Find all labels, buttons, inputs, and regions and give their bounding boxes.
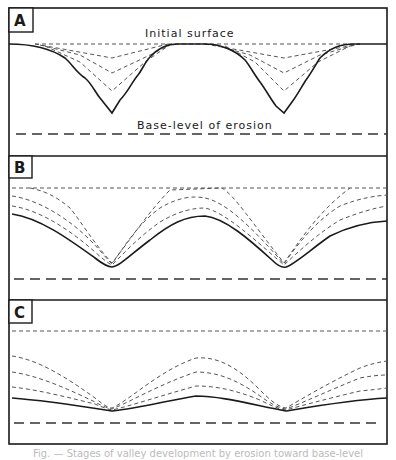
panel-a: A Initial surface Base-level of erosion [9,8,387,134]
panel-b: B [9,156,387,279]
base-level-label: Base-level of erosion [137,119,273,132]
panel-c-label: C [14,304,25,322]
panel-a-label: A [14,12,26,30]
panel-c-intermediate-profiles [12,356,387,410]
panel-b-current-profile [12,214,387,267]
panel-c: C [9,300,387,423]
panel-a-current-profile [9,44,387,113]
panel-a-intermediate-profiles [35,44,360,91]
panel-b-label: B [14,159,25,177]
panel-b-intermediate-profiles [12,188,387,265]
figure-caption: Fig. — Stages of valley development by e… [0,448,396,460]
initial-surface-label: Initial surface [145,27,235,40]
